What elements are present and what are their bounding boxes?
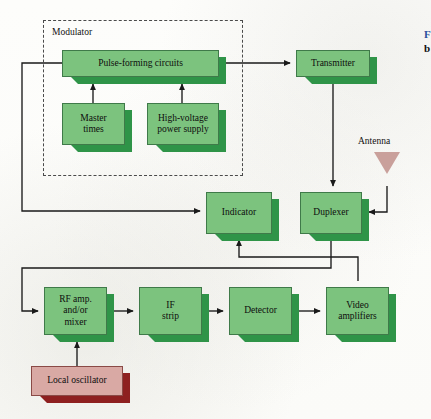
antenna-triangle-icon (374, 152, 400, 174)
block-label: High-voltagepower supply (154, 113, 211, 136)
block-duplexer[interactable]: Duplexer (300, 192, 362, 234)
wire-antenna-to-duplexer (369, 186, 387, 212)
block-face: Transmitter (296, 50, 370, 77)
antenna-label: Antenna (358, 136, 390, 146)
modulator-group-boundary (43, 20, 243, 176)
block-local-oscillator[interactable]: Local oscillator (31, 366, 123, 396)
block-indicator[interactable]: Indicator (206, 192, 272, 234)
block-transmitter[interactable]: Transmitter (296, 50, 370, 77)
block-label: Transmitter (308, 58, 358, 70)
block-face: Duplexer (300, 192, 362, 234)
wire-video-to-indicator (239, 240, 358, 281)
block-label: RF amp.and/ormixer (56, 294, 95, 329)
block-face: Indicator (206, 192, 272, 234)
block-detector[interactable]: Detector (229, 287, 292, 335)
block-face: Videoamplifiers (326, 287, 389, 335)
figure-canvas: Modulator Pulse-forming circuits Mastert… (0, 0, 431, 419)
block-master-times[interactable]: Mastertimes (62, 103, 125, 145)
block-face: IFstrip (139, 287, 202, 335)
modulator-group-label: Modulator (52, 27, 92, 37)
block-label: Videoamplifiers (335, 300, 380, 323)
block-label: Mastertimes (77, 113, 109, 136)
block-face: Detector (229, 287, 292, 335)
block-pulse-forming-circuits[interactable]: Pulse-forming circuits (62, 50, 219, 77)
block-rf-amp-mixer[interactable]: RF amp.and/ormixer (44, 287, 107, 335)
block-face: Mastertimes (62, 103, 125, 145)
antenna-symbol (374, 152, 400, 174)
block-face: Pulse-forming circuits (62, 50, 219, 77)
block-face: RF amp.and/ormixer (44, 287, 107, 335)
block-face: Local oscillator (31, 366, 123, 396)
block-label: Local oscillator (44, 375, 109, 387)
block-if-strip[interactable]: IFstrip (139, 287, 202, 335)
block-video-amplifiers[interactable]: Videoamplifiers (326, 287, 389, 335)
block-label: IFstrip (159, 300, 182, 323)
block-label: Pulse-forming circuits (95, 58, 186, 70)
block-label: Indicator (219, 207, 259, 219)
block-high-voltage-power-supply[interactable]: High-voltagepower supply (147, 103, 219, 145)
block-label: Detector (241, 305, 280, 317)
caption-fragment-figure: F (424, 28, 431, 40)
caption-fragment-bold: b (424, 42, 431, 54)
block-face: High-voltagepower supply (147, 103, 219, 145)
block-label: Duplexer (310, 207, 351, 219)
